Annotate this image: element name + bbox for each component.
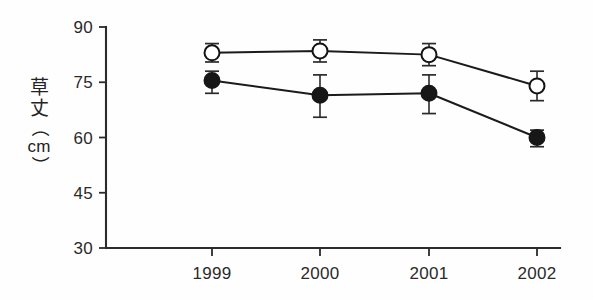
series-open-circle-series (205, 40, 545, 101)
line-filled-circle-series (212, 80, 537, 137)
series-filled-circle-series (205, 71, 545, 147)
y-tick-label-75: 75 (73, 73, 93, 92)
data-series-layer (205, 40, 545, 147)
y-tick-label-60: 60 (73, 129, 93, 148)
chart-figure: 草 丈 （ cm ） 3045607590 1999200020012002 (0, 0, 593, 300)
data-point-filled-circle-series-2001 (422, 86, 437, 101)
data-point-filled-circle-series-2002 (530, 130, 545, 145)
x-tick-label-2000: 2000 (300, 264, 339, 283)
data-point-filled-circle-series-2000 (313, 88, 328, 103)
data-point-filled-circle-series-1999 (205, 73, 220, 88)
y-tick-label-30: 30 (73, 239, 93, 258)
y-axis-tick-labels: 3045607590 (73, 18, 93, 258)
x-tick-label-1999: 1999 (192, 264, 231, 283)
x-axis-tick-labels: 1999200020012002 (192, 264, 556, 283)
data-point-open-circle-series-2001 (422, 47, 437, 62)
data-point-open-circle-series-1999 (205, 45, 220, 60)
x-tick-label-2002: 2002 (517, 264, 556, 283)
y-tick-label-45: 45 (73, 184, 93, 203)
line-open-circle-series (212, 51, 537, 86)
data-point-open-circle-series-2002 (530, 78, 545, 93)
x-axis-ticks (212, 248, 537, 256)
x-tick-label-2001: 2001 (409, 264, 448, 283)
chart-plot-area: 3045607590 1999200020012002 (0, 0, 593, 300)
y-tick-label-90: 90 (73, 18, 93, 37)
data-point-open-circle-series-2000 (313, 43, 328, 58)
